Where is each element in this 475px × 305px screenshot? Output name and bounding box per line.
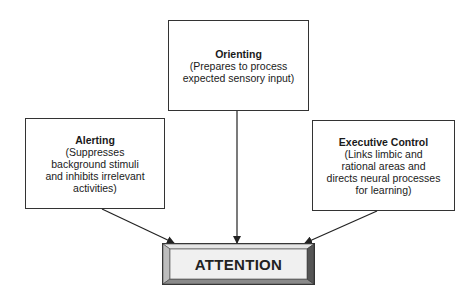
alerting-node: Alerting (Suppresses background stimuli … [25, 118, 165, 209]
arrow-executive-to-attention [305, 211, 377, 243]
arrow-alerting-to-attention [102, 209, 174, 243]
orienting-desc-line: (Prepares to process [190, 60, 287, 72]
alerting-desc-line: (Suppresses [66, 146, 125, 158]
alerting-desc-line: and inhibits irrelevant [45, 170, 144, 182]
orienting-title: Orienting [215, 48, 262, 60]
orienting-node: Orienting (Prepares to process expected … [168, 20, 309, 111]
executive-desc-line: rational areas and [341, 160, 425, 172]
alerting-desc-line: activities) [73, 182, 117, 194]
executive-desc-line: (Links limbic and [344, 148, 422, 160]
executive-control-node: Executive Control (Links limbic and rati… [312, 120, 455, 211]
executive-desc-line: directs neural processes [327, 172, 441, 184]
executive-title: Executive Control [339, 136, 428, 148]
attention-node: ATTENTION [162, 243, 315, 285]
alerting-title: Alerting [75, 134, 115, 146]
attention-label: ATTENTION [162, 243, 315, 285]
alerting-desc-line: background stimuli [51, 158, 139, 170]
orienting-desc-line: expected sensory input) [183, 72, 294, 84]
executive-desc-line: for learning) [355, 184, 411, 196]
